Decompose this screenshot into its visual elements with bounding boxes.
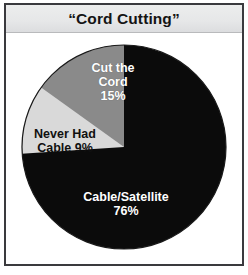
chart-figure: “Cord Cutting” Cut the Cord 15% Never Ha… (4, 3, 244, 266)
pie-label-cut-the-cord-line2: Cord (70, 75, 156, 89)
pie-label-cut-the-cord: Cut the Cord 15% (70, 61, 156, 103)
pie-label-never-had-cable-value: Cable 9% (13, 141, 117, 155)
pie-label-cut-the-cord-line1: Cut the (70, 61, 156, 75)
pie-label-cut-the-cord-value: 15% (70, 89, 156, 103)
pie-label-never-had-cable-line1: Never Had (13, 127, 117, 141)
pie-label-never-had-cable: Never Had Cable 9% (13, 127, 117, 155)
pie-label-cable-satellite-line1: Cable/Satellite (55, 190, 197, 204)
plot-area: Cut the Cord 15% Never Had Cable 9% Cabl… (6, 34, 242, 264)
chart-title-bar: “Cord Cutting” (6, 5, 242, 33)
pie-label-cable-satellite-value: 76% (55, 204, 197, 218)
page-title: “Cord Cutting” (68, 10, 180, 28)
pie-label-cable-satellite: Cable/Satellite 76% (55, 190, 197, 218)
pie-chart: Cut the Cord 15% Never Had Cable 9% Cabl… (20, 43, 228, 251)
